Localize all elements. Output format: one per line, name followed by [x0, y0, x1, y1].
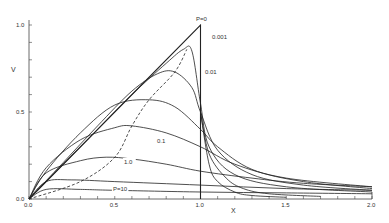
curve-label: 0.1 [157, 138, 166, 144]
curve-label: 1.0 [124, 159, 133, 165]
curve-label: 0.01 [205, 69, 217, 75]
x-tick-label: 1.5 [281, 202, 290, 208]
y-axis-label: V [11, 66, 16, 73]
x-tick-label: 2.0 [367, 202, 376, 208]
y-tick-label: 0.0 [16, 196, 25, 202]
x-tick-label: 0.5 [110, 202, 119, 208]
chart: 0.00.51.01.52.00.00.51.0 V X P=00.0010.0… [0, 0, 389, 223]
x-tick-label: 0.0 [24, 202, 33, 208]
x-axis-label: X [231, 207, 236, 214]
curve-label: P=10 [113, 186, 128, 192]
y-tick-label: 1.0 [16, 22, 25, 28]
curves [29, 25, 372, 199]
curve-label: P=0 [196, 16, 208, 22]
y-tick-label: 0.5 [16, 109, 25, 115]
x-tick-label: 1.0 [196, 202, 205, 208]
curve-decay [201, 112, 321, 196]
curve-label: 0.001 [212, 34, 228, 40]
